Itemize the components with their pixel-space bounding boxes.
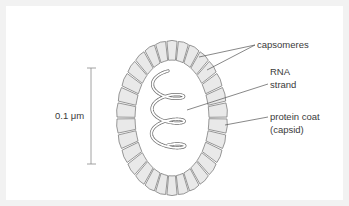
capsomere [208, 103, 227, 117]
rna-helix-core [151, 71, 184, 148]
virus-diagram: 0.1 μm capsomeres RNA strand protein coa… [0, 0, 349, 206]
rna-label-line1: RNA [270, 66, 291, 77]
scale-bar-label: 0.1 μm [55, 110, 84, 121]
capsomere [167, 176, 177, 196]
rna-leader [187, 84, 268, 110]
rna-strand [151, 71, 184, 148]
rna-label-line2: strand [270, 79, 296, 90]
coat-label-line1: protein coat [270, 111, 320, 122]
capsomere [167, 40, 177, 60]
capsomere [208, 119, 227, 133]
coat-label-line2: (capsid) [270, 124, 304, 135]
rna-helix-outline [151, 71, 184, 148]
capsomere [117, 103, 136, 117]
capsomere [117, 119, 136, 133]
capsomeres-label: capsomeres [257, 39, 309, 50]
coat-leader [225, 117, 268, 125]
capsomeres-leader-1 [199, 45, 255, 57]
capsomeres-leader-2 [207, 45, 255, 70]
scale-bar: 0.1 μm [55, 68, 96, 164]
